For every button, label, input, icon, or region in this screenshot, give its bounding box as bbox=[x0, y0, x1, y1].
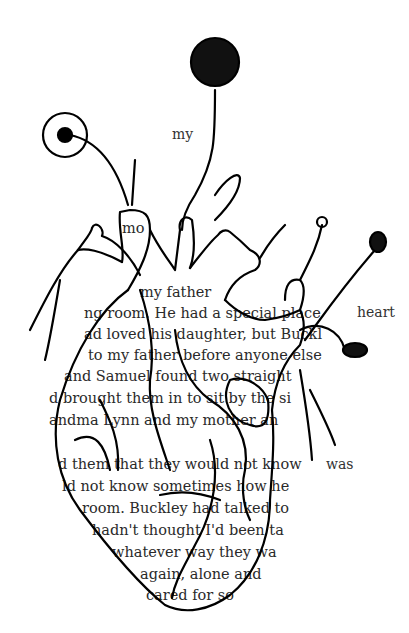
heart-outline bbox=[56, 290, 304, 610]
heart-drawing bbox=[0, 0, 409, 633]
artwork-canvas: my heart was mo my father ng room. He ha… bbox=[0, 0, 409, 633]
